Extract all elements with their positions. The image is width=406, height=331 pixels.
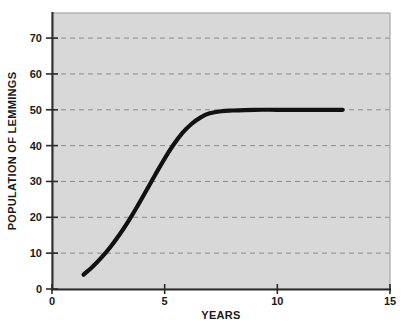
x-tick-label-5: 5 bbox=[162, 295, 168, 307]
x-tick-label-0: 0 bbox=[49, 295, 55, 307]
x-tick-label-15: 15 bbox=[384, 295, 396, 307]
x-tick-label-10: 10 bbox=[271, 295, 283, 307]
y-tick-label-20: 20 bbox=[30, 211, 42, 223]
y-tick-label-50: 50 bbox=[30, 104, 42, 116]
plot-area-background bbox=[52, 13, 390, 289]
y-tick-label-60: 60 bbox=[30, 68, 42, 80]
lemming-population-chart: 010203040506070 051015 YEARS POPULATION … bbox=[0, 0, 406, 331]
y-tick-label-10: 10 bbox=[30, 247, 42, 259]
y-axis-title: POPULATION OF LEMMINGS bbox=[6, 72, 18, 231]
chart-canvas: 010203040506070 051015 YEARS POPULATION … bbox=[0, 0, 406, 331]
y-tick-label-0: 0 bbox=[36, 283, 42, 295]
y-tick-label-30: 30 bbox=[30, 175, 42, 187]
x-axis-title: YEARS bbox=[201, 309, 240, 321]
y-tick-label-40: 40 bbox=[30, 140, 42, 152]
y-tick-label-70: 70 bbox=[30, 32, 42, 44]
